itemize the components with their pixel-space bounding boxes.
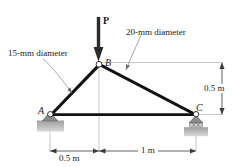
joint-label-a: A — [38, 106, 44, 116]
load-label-p: P — [103, 16, 109, 26]
member-bc — [98, 63, 196, 116]
ground-block-c — [184, 127, 208, 136]
joint-pin-b — [96, 61, 102, 67]
roller-1 — [189, 123, 193, 127]
leader-lines — [43, 35, 141, 93]
truss-members — [51, 63, 197, 116]
load-arrow-shaft — [97, 17, 100, 52]
member-ac — [51, 113, 195, 116]
note-20mm-diameter: 20-mm diameter — [126, 28, 186, 37]
roller-3 — [198, 123, 202, 127]
joint-pin-a — [48, 112, 53, 117]
joint-label-b: B — [105, 58, 111, 68]
load-arrow-p — [94, 17, 104, 62]
joint-pins — [48, 61, 199, 117]
support-c — [184, 116, 208, 137]
joint-label-c: C — [196, 103, 203, 113]
dimension-label-05m-horizontal: 0.5 m — [59, 154, 80, 163]
leader-line-20mm — [126, 35, 141, 70]
truss-drawing-canvas — [0, 0, 232, 167]
member-ab — [51, 64, 101, 115]
note-15mm-diameter: 15-mm diameter — [8, 49, 68, 58]
roller-2 — [194, 123, 198, 127]
dimension-label-05m-vertical: 0.5 m — [203, 84, 226, 93]
dimension-label-1m-horizontal: 1 m — [138, 146, 158, 155]
load-arrow-head — [94, 47, 104, 62]
truss-figure: 15-mm diameter 20-mm diameter P A B C 0.… — [0, 0, 232, 167]
leader-line-15mm — [43, 59, 72, 93]
ground-block-a — [37, 121, 64, 132]
